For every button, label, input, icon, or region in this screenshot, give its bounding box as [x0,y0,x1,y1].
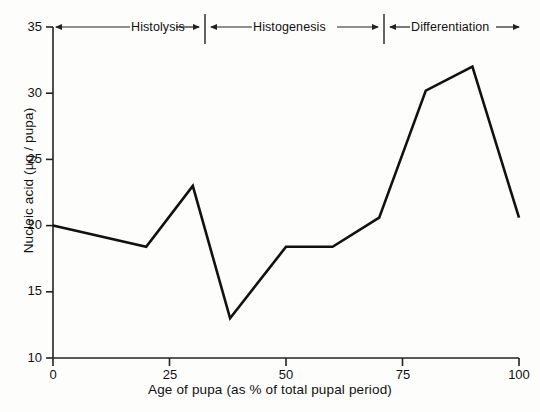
y-tick-label-35: 35 [8,19,42,34]
phase-label-histogenesis: Histogenesis [253,20,326,34]
phase-label-histolysis: Histolysis [131,20,185,34]
y-axis-title: Nucleic acid (µg / pupa) [21,71,36,291]
y-tick-label-10: 10 [8,350,42,365]
x-tick-label-100: 100 [499,367,539,382]
y-axis-ticks [46,27,53,358]
x-tick-label-25: 25 [150,367,190,382]
x-axis-ticks [53,358,519,366]
phase-label-differentiation: Differentiation [411,20,489,34]
x-tick-label-50: 50 [266,367,306,382]
x-tick-label-0: 0 [33,367,73,382]
chart-figure: Histolysis Histogenesis Differentiation … [0,0,540,412]
x-tick-label-75: 75 [383,367,423,382]
data-series-line [53,67,519,319]
x-axis-title: Age of pupa (as % of total pupal period) [0,382,540,397]
chart-plot-area [0,0,540,412]
